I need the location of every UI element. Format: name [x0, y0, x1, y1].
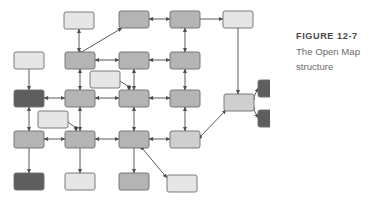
open-map-diagram [0, 0, 270, 201]
map-node[interactable] [65, 173, 95, 190]
map-node-offset[interactable] [38, 111, 68, 128]
map-node[interactable] [14, 90, 44, 107]
map-node[interactable] [170, 90, 200, 107]
figure-label: FIGURE 12-7 [296, 30, 376, 43]
map-node[interactable] [119, 131, 149, 148]
map-node[interactable] [223, 11, 253, 28]
edge-r1c1-r0c2-diagonal [80, 28, 122, 53]
map-node-leaf[interactable] [258, 80, 270, 97]
map-node[interactable] [14, 131, 44, 148]
map-node[interactable] [119, 11, 149, 28]
map-node[interactable] [170, 131, 200, 148]
map-node-leaf[interactable] [258, 110, 270, 127]
map-node-offset[interactable] [90, 71, 120, 88]
map-node-offset[interactable] [167, 175, 197, 192]
map-node[interactable] [65, 90, 95, 107]
diagram-canvas [0, 0, 270, 201]
map-node[interactable] [64, 12, 94, 29]
figure-caption: FIGURE 12-7 The Open Map structure [296, 30, 376, 74]
map-node[interactable] [14, 52, 44, 69]
map-node[interactable] [65, 52, 95, 69]
map-node[interactable] [14, 173, 44, 190]
map-node[interactable] [119, 52, 149, 69]
map-node[interactable] [65, 131, 95, 148]
edge-offb-joint [75, 127, 78, 130]
map-node[interactable] [170, 52, 200, 69]
map-node[interactable] [119, 90, 149, 107]
edge-offa-joint [128, 86, 131, 89]
figure-caption-text: The Open Map structure [296, 45, 376, 74]
map-node[interactable] [119, 173, 149, 190]
map-node[interactable] [170, 11, 200, 28]
node-layer [14, 11, 270, 192]
figure-page: FIGURE 12-7 The Open Map structure [0, 0, 379, 201]
edge-r3c3-hub-diagonal [200, 110, 226, 137]
map-node-hub[interactable] [224, 94, 254, 111]
